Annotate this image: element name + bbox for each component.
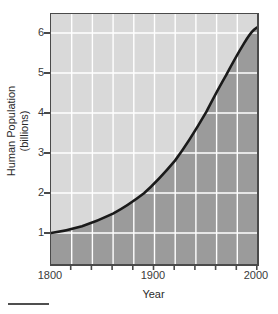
x-axis-title: Year [50, 288, 257, 300]
ytick-mark-6 [44, 32, 50, 34]
plot-graphics [51, 14, 258, 265]
plot-right-border [257, 13, 259, 264]
xtick-label-2000: 2000 [235, 270, 277, 281]
population-growth-chart: 6 5 4 3 2 1 Human Population (billions) … [0, 0, 278, 314]
ytick-label-6: 6 [26, 27, 44, 38]
ytick-mark-4 [44, 112, 50, 114]
y-axis-title-line2: (billions) [18, 51, 31, 211]
footer-divider-rule [8, 303, 49, 305]
y-axis-title: Human Population (billions) [5, 51, 31, 211]
xtick-label-1900: 1900 [132, 270, 174, 281]
xtick-label-1800: 1800 [29, 270, 71, 281]
ytick-mark-2 [44, 192, 50, 194]
ytick-mark-5 [44, 72, 50, 74]
plot-area [50, 13, 258, 265]
ytick-mark-1 [44, 232, 50, 234]
y-axis-title-line1: Human Population [5, 86, 17, 177]
ytick-label-1: 1 [26, 227, 44, 238]
ytick-mark-3 [44, 152, 50, 154]
